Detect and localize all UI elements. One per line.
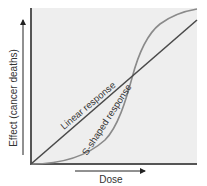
y-axis-label: Effect (cancer deaths): [8, 49, 19, 147]
dose-response-diagram: Linear response S-shaped response Effect…: [0, 0, 207, 186]
x-axis-label: Dose: [99, 174, 123, 185]
